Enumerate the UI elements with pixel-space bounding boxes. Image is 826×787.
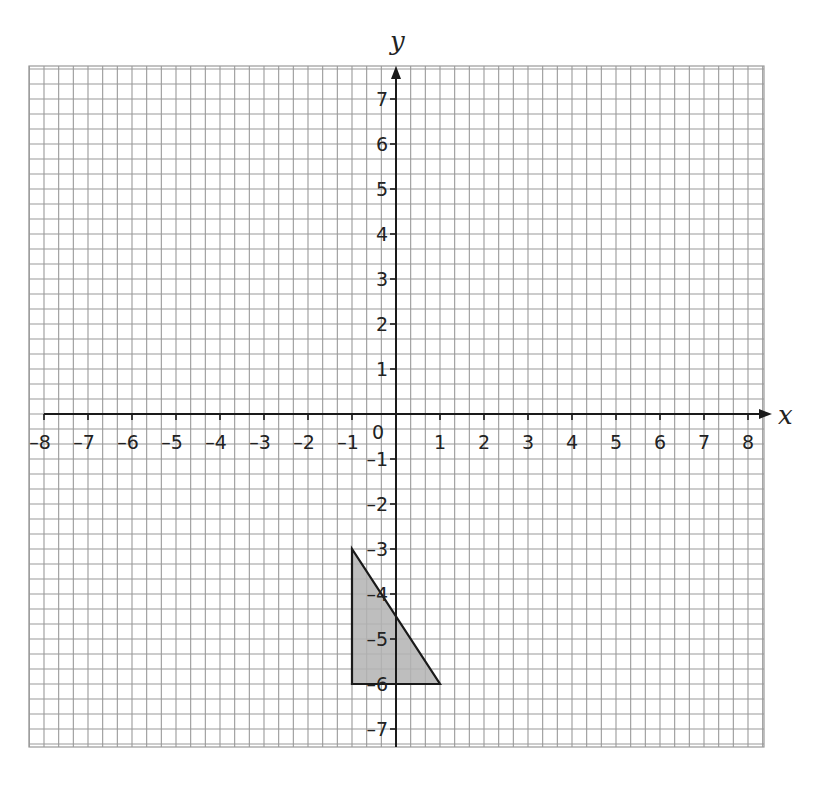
x-tick-label: 1 [434,431,446,453]
x-tick-label: –6 [117,431,139,453]
x-tick-label: 2 [478,431,490,453]
y-tick-label: 6 [376,133,388,155]
y-tick-label: 4 [376,223,388,245]
y-tick-label: –6 [366,673,388,695]
x-tick-label: 5 [610,431,622,453]
y-tick-label: –5 [366,628,388,650]
coordinate-grid-chart: –8–7–6–5–4–3–2–1123456787654321–1–2–3–4–… [0,0,826,787]
x-axis-arrow-icon [759,409,772,419]
x-tick-label: –3 [249,431,271,453]
y-tick-label: 1 [376,358,388,380]
x-axis-title: x [778,400,793,430]
x-tick-label: 3 [522,431,534,453]
x-tick-label: –8 [29,431,51,453]
y-tick-label: 5 [376,178,388,200]
x-tick-label: 8 [742,431,754,453]
y-tick-label: –2 [366,493,388,515]
y-tick-label: –3 [366,538,388,560]
x-tick-label: –4 [205,431,227,453]
y-tick-label: –7 [366,718,388,740]
x-tick-label: –5 [161,431,183,453]
y-tick-label: –4 [366,583,388,605]
y-tick-label: 3 [376,268,388,290]
y-tick-label: –1 [366,448,388,470]
x-tick-label: 6 [654,431,666,453]
y-axis-title: y [389,26,405,56]
x-tick-label: –2 [293,431,315,453]
x-tick-label: 7 [698,431,710,453]
x-tick-label: –7 [73,431,95,453]
x-tick-label: 4 [566,431,578,453]
y-tick-label: 2 [376,313,388,335]
y-tick-label: 7 [376,88,388,110]
origin-label: 0 [372,421,384,443]
x-tick-label: –1 [337,431,359,453]
